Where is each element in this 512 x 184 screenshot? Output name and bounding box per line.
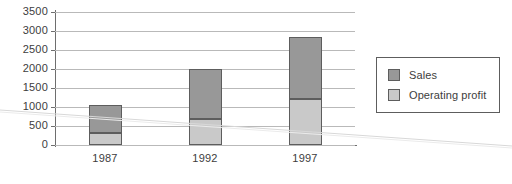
bar-segment-sales — [189, 69, 222, 119]
bar-segment-sales — [89, 105, 122, 133]
y-axis-tick-label: 3500 — [23, 6, 48, 17]
y-axis-tick-label: 500 — [29, 120, 48, 131]
y-axis-tick-label: 1500 — [23, 82, 48, 93]
plot-area: 3500300025002000150010005000 — [55, 12, 355, 145]
y-axis-tick-label: 1000 — [23, 101, 48, 112]
y-axis-tick — [51, 145, 55, 146]
x-axis-category-label: 1992 — [170, 152, 240, 164]
bar-segment-operating-profit — [89, 133, 122, 145]
y-axis-tick — [51, 12, 55, 13]
x-axis-category-label: 1987 — [70, 152, 140, 164]
legend-item-operating-profit: Operating profit — [388, 89, 486, 101]
chart-legend: Sales Operating profit — [376, 57, 500, 113]
y-axis-tick-label: 2000 — [23, 63, 48, 74]
y-axis-tick — [51, 31, 55, 32]
legend-swatch-operating-profit-icon — [388, 89, 400, 101]
legend-label-operating-profit: Operating profit — [409, 89, 486, 101]
y-axis-tick — [51, 88, 55, 89]
y-axis-tick-label: 2500 — [23, 44, 48, 55]
legend-item-sales: Sales — [388, 69, 437, 81]
stacked-bar-chart: 3500300025002000150010005000 19871992199… — [0, 0, 512, 184]
y-axis-tick-label: 0 — [42, 139, 48, 150]
y-axis-tick — [51, 107, 55, 108]
y-axis-tick — [51, 50, 55, 51]
bar-group — [89, 12, 122, 145]
legend-label-sales: Sales — [409, 69, 437, 81]
bar-segment-sales — [289, 37, 322, 100]
bar-group — [289, 12, 322, 145]
y-axis-tick-label: 3000 — [23, 25, 48, 36]
y-axis-tick — [51, 126, 55, 127]
y-axis-tick — [51, 69, 55, 70]
x-axis-category-label: 1997 — [270, 152, 340, 164]
gridline: 0 — [55, 145, 355, 146]
legend-swatch-sales-icon — [388, 69, 400, 81]
bar-segment-operating-profit — [189, 119, 222, 145]
bar-segment-operating-profit — [289, 99, 322, 145]
bar-group — [189, 12, 222, 145]
